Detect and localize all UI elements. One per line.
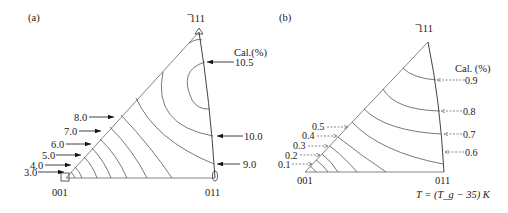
edge-001-111 bbox=[66, 32, 199, 178]
svg-text:7.0: 7.0 bbox=[64, 126, 77, 137]
corner-label-011-b: 011 bbox=[435, 175, 450, 186]
left-arrows-b: 0.5 0.4 0.3 0.2 0.1 bbox=[278, 121, 348, 170]
svg-text:0.9: 0.9 bbox=[465, 75, 478, 86]
svg-text:5.0: 5.0 bbox=[42, 150, 55, 161]
svg-text:0.7: 0.7 bbox=[463, 129, 476, 140]
panel-a: (a) ̅111 001 011 Cal.(%) bbox=[24, 12, 267, 198]
svg-text:3.0: 3.0 bbox=[24, 167, 37, 178]
square-marker-001 bbox=[61, 173, 69, 181]
right-arrows-b: 0.9 0.8 0.7 0.6 bbox=[437, 75, 478, 158]
panel-b-label: (b) bbox=[279, 12, 292, 24]
corner-label-011: 011 bbox=[205, 187, 220, 198]
corner-label-001: 001 bbox=[52, 187, 68, 198]
contours-b bbox=[310, 68, 443, 172]
svg-text:0.1: 0.1 bbox=[278, 159, 291, 170]
corner-label-111: ̅111 bbox=[187, 13, 205, 24]
svg-text:9.0: 9.0 bbox=[243, 159, 256, 170]
svg-text:0.8: 0.8 bbox=[463, 106, 476, 117]
svg-text:10.0: 10.0 bbox=[244, 131, 262, 142]
corner-label-111-b: ̅111 bbox=[415, 23, 433, 34]
figure: (a) ̅111 001 011 Cal.(%) bbox=[0, 0, 508, 213]
panel-a-label: (a) bbox=[28, 12, 40, 24]
panel-b: (b) ̅111 001 011 Cal. (%) 0.5 0.4 0.3 0.… bbox=[278, 12, 491, 201]
legend-title-b: Cal. (%) bbox=[455, 63, 491, 75]
temperature-footnote: T = (T_g − 35) K bbox=[416, 189, 491, 201]
svg-text:6.0: 6.0 bbox=[51, 139, 64, 150]
edge-111-011 bbox=[199, 32, 215, 178]
left-arrows-a: 8.0 7.0 6.0 5.0 4.0 3.0 bbox=[24, 112, 114, 178]
edge-111-011-b bbox=[428, 42, 444, 172]
svg-text:10.5: 10.5 bbox=[235, 57, 253, 68]
contours-a bbox=[71, 39, 214, 178]
corner-label-001-b: 001 bbox=[297, 175, 313, 186]
svg-text:8.0: 8.0 bbox=[74, 112, 87, 123]
svg-text:0.6: 0.6 bbox=[465, 147, 478, 158]
right-arrows-a: 10.5 10.0 9.0 bbox=[207, 57, 262, 170]
